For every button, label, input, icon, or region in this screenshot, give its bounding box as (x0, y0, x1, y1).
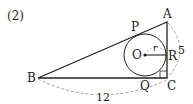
label-bc-length: 12 (96, 91, 110, 104)
triangle-abc (38, 22, 167, 78)
label-c: C (167, 79, 176, 93)
label-radius: r (153, 43, 158, 53)
label-b: B (27, 71, 36, 85)
label-a: A (162, 7, 172, 21)
label-r: R (168, 49, 178, 63)
triangle-incircle-diagram: (2) A B C P Q R O r 12 5 (0, 0, 193, 104)
label-ac-length: 5 (178, 44, 185, 57)
right-angle-mark (160, 71, 167, 78)
problem-label: (2) (7, 9, 24, 23)
label-q: Q (140, 79, 150, 93)
label-o: O (132, 48, 142, 62)
label-p: P (131, 20, 139, 34)
